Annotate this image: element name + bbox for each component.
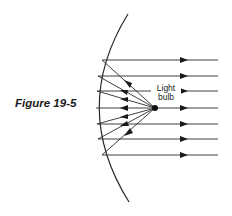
light-bulb-label-line2: bulb	[151, 93, 181, 102]
light-bulb-dot	[152, 105, 158, 111]
light-bulb-label: Light bulb	[151, 84, 181, 102]
figure-19-5: Figure 19-5 Light bulb	[0, 0, 232, 216]
figure-caption: Figure 19-5	[15, 97, 76, 109]
reflected-ray-arrows	[180, 57, 188, 158]
